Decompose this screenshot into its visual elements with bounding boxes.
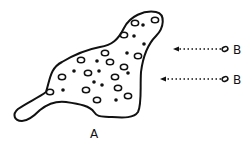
ring-particle — [106, 59, 113, 65]
dot-particle — [132, 34, 136, 38]
ring-particle — [46, 89, 53, 95]
label-b: B — [233, 43, 241, 57]
dot-particle — [72, 69, 76, 73]
ring-particle — [120, 32, 127, 38]
ring-particle — [120, 64, 127, 70]
particle-arrows: BB — [160, 43, 241, 87]
dot-particle — [125, 51, 129, 55]
ring-particle — [131, 20, 138, 26]
diagram-canvas: BB A — [0, 0, 249, 150]
dot-particle — [142, 42, 146, 46]
ring-particle — [77, 57, 84, 63]
label-a: A — [90, 127, 99, 141]
arrow-to-body: B — [160, 73, 241, 87]
arrowhead-icon — [160, 77, 166, 82]
arrow-to-body: B — [173, 43, 241, 57]
dot-particle — [97, 69, 101, 73]
particle-b — [221, 76, 228, 83]
ring-particle — [124, 93, 131, 99]
dot-particle — [100, 83, 104, 87]
ring-particle — [114, 85, 121, 91]
ring-particle — [101, 50, 108, 56]
ring-particle — [134, 53, 141, 59]
dot-particle — [141, 23, 145, 27]
ring-particle — [58, 74, 65, 80]
dot-particle — [114, 98, 118, 102]
dot-particles — [61, 23, 146, 102]
particle-b — [221, 46, 228, 53]
ring-particle — [93, 97, 100, 103]
ring-particle — [111, 74, 118, 80]
dot-particle — [61, 88, 65, 92]
ring-particle — [151, 17, 158, 23]
ring-particle — [84, 70, 91, 76]
arrowhead-icon — [173, 47, 179, 52]
body-outline — [15, 12, 163, 121]
ring-particle — [82, 87, 89, 93]
dot-particle — [92, 80, 96, 84]
dot-particle — [95, 59, 99, 63]
dot-particle — [126, 71, 130, 75]
label-b: B — [233, 73, 241, 87]
